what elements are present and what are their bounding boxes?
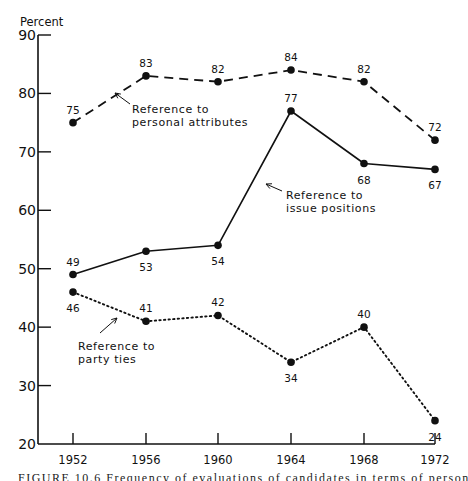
annotation-text: issue positions: [286, 202, 376, 215]
annotation-1: Reference topersonal attributes: [115, 93, 248, 129]
data-label: 53: [139, 261, 152, 273]
arrow-icon: [115, 93, 130, 104]
data-point: [287, 358, 295, 366]
annotation-text: personal attributes: [132, 116, 248, 129]
data-point: [431, 417, 439, 425]
y-tick-label: 30: [18, 378, 36, 394]
data-label: 49: [66, 256, 79, 268]
data-label: 83: [139, 57, 152, 69]
y-tick-label: 50: [18, 261, 36, 277]
y-axis-label: Percent: [20, 15, 64, 29]
data-label: 82: [211, 63, 224, 75]
data-point: [287, 66, 295, 74]
y-tick-label: 40: [18, 319, 36, 335]
data-label: 82: [357, 63, 370, 75]
annotation-text: party ties: [78, 353, 136, 366]
figure-caption: FIGURE 10.6 Frequency of evaluations of …: [18, 472, 468, 481]
data-label: 42: [211, 296, 224, 308]
axes: 2030405060708090Percent19521956196019641…: [18, 15, 449, 467]
data-point: [69, 288, 77, 296]
series-lines: 758382848272495354776867464142344024: [66, 51, 442, 443]
data-label: 84: [284, 51, 298, 63]
data-point: [142, 72, 150, 80]
data-label: 46: [66, 302, 80, 314]
x-tick-label: 1964: [276, 453, 305, 467]
annotation-text: Reference to: [78, 340, 155, 353]
data-label: 41: [139, 302, 152, 314]
data-point: [214, 312, 222, 320]
series-reference-to-issue-positions: 495354776867: [66, 92, 441, 278]
data-point: [360, 78, 368, 86]
series-reference-to-personal-attributes: 758382848272: [66, 51, 441, 144]
x-tick-label: 1956: [131, 453, 160, 467]
data-point: [214, 78, 222, 86]
data-label: 68: [357, 174, 370, 186]
data-label: 75: [66, 104, 79, 116]
annotation-text: Reference to: [132, 103, 209, 116]
data-label: 67: [428, 179, 441, 191]
data-point: [431, 166, 439, 174]
x-tick-label: 1960: [203, 453, 232, 467]
annotation-text: Reference to: [286, 189, 363, 202]
x-tick-label: 1952: [58, 453, 87, 467]
data-point: [69, 271, 77, 279]
annotation-2: Reference toissue positions: [266, 184, 376, 215]
data-point: [287, 107, 295, 115]
y-tick-label: 90: [18, 27, 36, 43]
x-tick-label: 1972: [420, 453, 449, 467]
arrow-icon: [100, 318, 117, 333]
y-tick-label: 80: [18, 85, 36, 101]
data-label: 77: [284, 92, 297, 104]
y-tick-label: 20: [18, 436, 36, 452]
data-label: 34: [284, 372, 298, 384]
data-point: [69, 119, 77, 127]
y-tick-label: 70: [18, 144, 36, 160]
data-label: 54: [211, 255, 225, 267]
data-label: 24: [428, 431, 442, 443]
data-point: [431, 136, 439, 144]
data-point: [214, 242, 222, 250]
data-point: [142, 247, 150, 255]
data-point: [360, 160, 368, 168]
annotation-3: Reference toparty ties: [78, 318, 155, 366]
y-tick-label: 60: [18, 202, 36, 218]
data-label: 40: [357, 308, 370, 320]
data-label: 72: [428, 121, 441, 133]
data-point: [142, 318, 150, 326]
data-point: [360, 323, 368, 331]
x-tick-label: 1968: [349, 453, 378, 467]
